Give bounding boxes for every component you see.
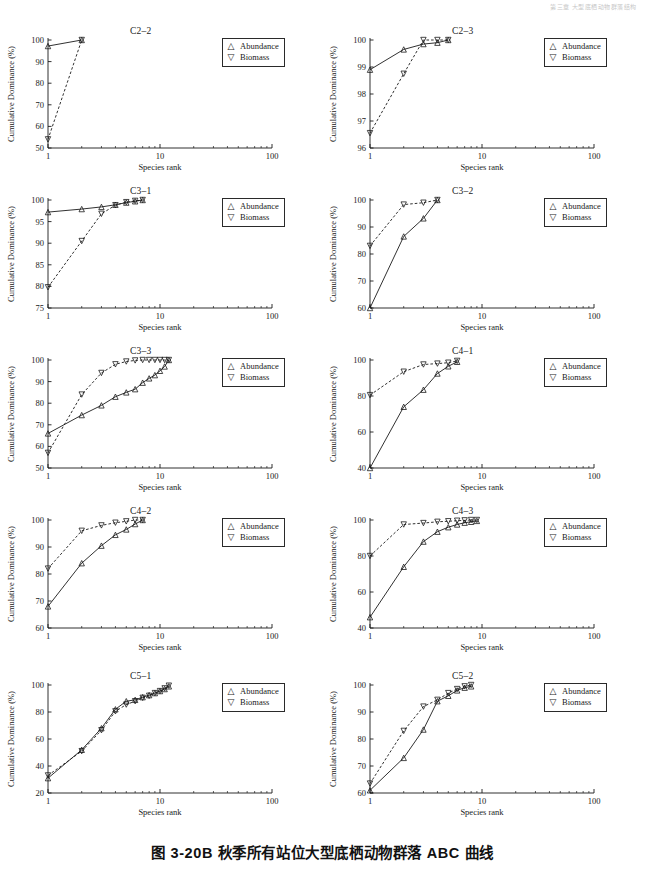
svg-text:10: 10 bbox=[478, 311, 487, 321]
svg-text:1: 1 bbox=[46, 796, 50, 806]
svg-text:80: 80 bbox=[358, 391, 367, 401]
svg-text:Species rank: Species rank bbox=[460, 807, 504, 817]
svg-text:60: 60 bbox=[36, 734, 45, 744]
legend-label: Biomass bbox=[562, 52, 591, 63]
svg-text:60: 60 bbox=[358, 427, 367, 437]
svg-text:Cumulative Dominance (%): Cumulative Dominance (%) bbox=[6, 526, 16, 622]
legend: △Abundance▽Biomass bbox=[222, 38, 285, 67]
svg-text:10: 10 bbox=[156, 471, 165, 481]
legend: △Abundance▽Biomass bbox=[222, 518, 285, 547]
svg-text:100: 100 bbox=[353, 195, 366, 205]
panel-title: C2–3 bbox=[452, 26, 473, 36]
svg-text:Species rank: Species rank bbox=[138, 642, 182, 652]
svg-text:Species rank: Species rank bbox=[138, 162, 182, 172]
triangle-up-icon: △ bbox=[227, 362, 235, 371]
svg-text:10: 10 bbox=[156, 631, 165, 641]
legend: △Abundance▽Biomass bbox=[222, 358, 285, 387]
legend-item-triangle-down: ▽Biomass bbox=[227, 372, 279, 383]
legend-item-triangle-up: △Abundance bbox=[227, 201, 279, 212]
svg-text:50: 50 bbox=[36, 143, 45, 153]
svg-text:Cumulative Dominance (%): Cumulative Dominance (%) bbox=[328, 366, 338, 462]
svg-text:Cumulative Dominance (%): Cumulative Dominance (%) bbox=[328, 691, 338, 787]
svg-text:70: 70 bbox=[36, 596, 45, 606]
legend-label: Abundance bbox=[240, 521, 279, 532]
legend-label: Abundance bbox=[562, 361, 601, 372]
svg-text:Cumulative Dominance (%): Cumulative Dominance (%) bbox=[328, 526, 338, 622]
svg-text:100: 100 bbox=[588, 311, 601, 321]
legend: △Abundance▽Biomass bbox=[222, 683, 285, 712]
svg-text:70: 70 bbox=[358, 761, 367, 771]
triangle-up-icon: △ bbox=[549, 362, 557, 371]
svg-text:99: 99 bbox=[358, 62, 367, 72]
svg-text:100: 100 bbox=[588, 631, 601, 641]
svg-text:100: 100 bbox=[31, 355, 44, 365]
running-header: 第三章 大型底栖动物群落结构 bbox=[550, 2, 637, 11]
chart-panel-C4-2: C4–260708090100110100Species rankCumulat… bbox=[0, 506, 322, 666]
svg-text:40: 40 bbox=[358, 623, 367, 633]
legend-item-triangle-up: △Abundance bbox=[549, 686, 601, 697]
svg-text:90: 90 bbox=[36, 238, 45, 248]
legend-item-triangle-down: ▽Biomass bbox=[227, 212, 279, 223]
svg-text:10: 10 bbox=[156, 796, 165, 806]
triangle-up-icon: △ bbox=[549, 522, 557, 531]
legend-item-triangle-down: ▽Biomass bbox=[549, 532, 601, 543]
svg-text:40: 40 bbox=[36, 761, 45, 771]
svg-text:97: 97 bbox=[358, 116, 367, 126]
svg-text:10: 10 bbox=[478, 796, 487, 806]
legend-label: Biomass bbox=[562, 372, 591, 383]
svg-text:100: 100 bbox=[353, 355, 366, 365]
svg-text:70: 70 bbox=[36, 100, 45, 110]
svg-text:100: 100 bbox=[31, 195, 44, 205]
legend-label: Abundance bbox=[562, 41, 601, 52]
legend-label: Abundance bbox=[240, 41, 279, 52]
legend-item-triangle-up: △Abundance bbox=[549, 201, 601, 212]
triangle-down-icon: ▽ bbox=[227, 698, 235, 707]
legend: △Abundance▽Biomass bbox=[222, 198, 285, 227]
triangle-down-icon: ▽ bbox=[227, 213, 235, 222]
svg-text:85: 85 bbox=[36, 260, 45, 270]
svg-text:1: 1 bbox=[368, 631, 372, 641]
svg-text:Species rank: Species rank bbox=[138, 482, 182, 492]
legend-label: Biomass bbox=[240, 697, 269, 708]
legend-label: Abundance bbox=[562, 201, 601, 212]
legend-label: Abundance bbox=[240, 361, 279, 372]
svg-text:Species rank: Species rank bbox=[460, 642, 504, 652]
legend-label: Biomass bbox=[562, 697, 591, 708]
svg-text:100: 100 bbox=[31, 680, 44, 690]
triangle-down-icon: ▽ bbox=[227, 533, 235, 542]
svg-text:10: 10 bbox=[156, 311, 165, 321]
legend-label: Biomass bbox=[240, 212, 269, 223]
legend-label: Abundance bbox=[240, 201, 279, 212]
svg-text:1: 1 bbox=[368, 151, 372, 161]
svg-text:100: 100 bbox=[353, 680, 366, 690]
svg-text:100: 100 bbox=[588, 796, 601, 806]
legend: △Abundance▽Biomass bbox=[544, 518, 607, 547]
svg-text:Species rank: Species rank bbox=[460, 482, 504, 492]
svg-text:60: 60 bbox=[358, 788, 367, 798]
legend-label: Biomass bbox=[240, 52, 269, 63]
legend-item-triangle-down: ▽Biomass bbox=[549, 372, 601, 383]
svg-text:96: 96 bbox=[358, 143, 367, 153]
legend: △Abundance▽Biomass bbox=[544, 38, 607, 67]
svg-text:1: 1 bbox=[46, 151, 50, 161]
triangle-up-icon: △ bbox=[227, 522, 235, 531]
chart-panel-C2-3: C2–396979899100110100Species rankCumulat… bbox=[322, 26, 644, 186]
triangle-down-icon: ▽ bbox=[549, 53, 557, 62]
svg-text:80: 80 bbox=[36, 78, 45, 88]
chart-panel-C3-3: C3–35060708090100110100Species rankCumul… bbox=[0, 346, 322, 506]
svg-text:1: 1 bbox=[368, 471, 372, 481]
panel-title: C5–2 bbox=[452, 671, 473, 681]
figure-caption: 图 3-20B 秋季所有站位大型底栖动物群落 ABC 曲线 bbox=[0, 841, 645, 862]
legend-item-triangle-down: ▽Biomass bbox=[549, 212, 601, 223]
legend-item-triangle-down: ▽Biomass bbox=[227, 52, 279, 63]
svg-text:60: 60 bbox=[36, 121, 45, 131]
triangle-up-icon: △ bbox=[549, 42, 557, 51]
legend-item-triangle-down: ▽Biomass bbox=[549, 697, 601, 708]
panel-title: C3–2 bbox=[452, 186, 473, 196]
legend-item-triangle-up: △Abundance bbox=[227, 361, 279, 372]
triangle-down-icon: ▽ bbox=[549, 698, 557, 707]
svg-text:Cumulative Dominance (%): Cumulative Dominance (%) bbox=[6, 691, 16, 787]
svg-text:100: 100 bbox=[31, 515, 44, 525]
chart-panel-C4-3: C4–3406080100110100Species rankCumulativ… bbox=[322, 506, 644, 666]
panel-title: C4–3 bbox=[452, 506, 473, 516]
